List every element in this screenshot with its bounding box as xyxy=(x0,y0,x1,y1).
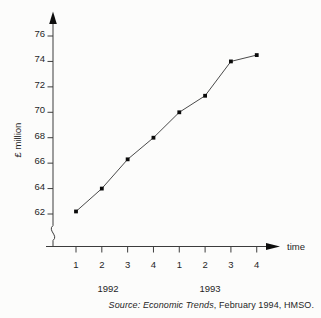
figure-canvas: time62646668707274761234123419921993£ mi… xyxy=(0,0,321,318)
x-axis-arrowhead xyxy=(266,243,280,250)
x-tick-label: 1 xyxy=(73,259,78,270)
x-tick-label: 4 xyxy=(254,259,259,270)
y-axis-arrowhead xyxy=(49,12,57,25)
x-axis-title: time xyxy=(287,241,305,252)
x-tick-label: 3 xyxy=(125,259,130,270)
y-tick-label: 64 xyxy=(34,181,45,192)
caption-source-label: Source: xyxy=(109,300,143,310)
x-tick-label: 2 xyxy=(99,259,104,270)
caption-suffix: , February 1994, HMSO. xyxy=(214,300,314,310)
y-tick-label: 70 xyxy=(34,104,45,115)
caption-source-title: Economic Trends xyxy=(143,300,214,310)
x-tick-label: 1 xyxy=(177,259,182,270)
y-tick-label: 72 xyxy=(34,79,45,90)
y-tick-label: 74 xyxy=(34,53,45,64)
y-axis-break xyxy=(51,226,54,247)
x-tick-label: 4 xyxy=(151,259,156,270)
y-tick-label: 76 xyxy=(34,28,45,39)
data-point xyxy=(229,60,233,64)
data-point xyxy=(203,94,207,98)
data-point xyxy=(74,210,78,214)
y-axis-title: £ million xyxy=(12,123,23,158)
x-tick-label: 3 xyxy=(228,259,233,270)
x-tick-label: 2 xyxy=(202,259,207,270)
data-point xyxy=(177,110,181,114)
y-tick-label: 66 xyxy=(34,155,45,166)
line-chart: time62646668707274761234123419921993£ mi… xyxy=(0,0,321,298)
year-label: 1993 xyxy=(199,283,220,294)
data-point xyxy=(152,136,156,140)
y-tick-label: 68 xyxy=(34,130,45,141)
data-point xyxy=(100,187,104,191)
y-tick-label: 62 xyxy=(34,206,45,217)
source-caption: Source: Economic Trends, February 1994, … xyxy=(0,300,314,310)
data-point xyxy=(255,53,259,57)
data-point xyxy=(126,157,130,161)
year-label: 1992 xyxy=(97,283,118,294)
